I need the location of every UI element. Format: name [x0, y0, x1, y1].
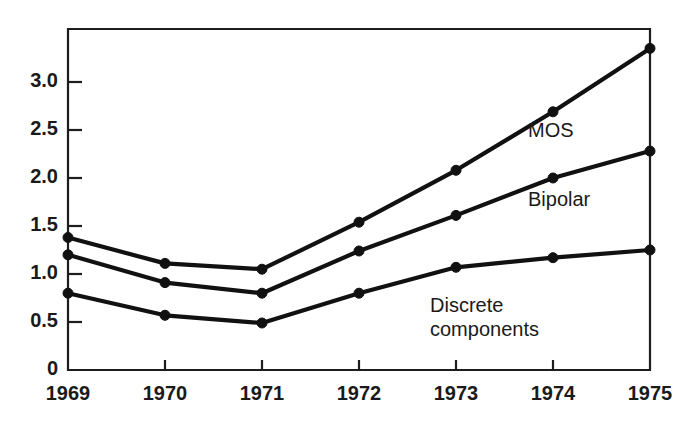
- y-tick-label-1.5: 1.5: [30, 213, 58, 235]
- series-mos: [63, 43, 655, 274]
- data-point: [354, 217, 364, 227]
- data-point: [160, 278, 170, 288]
- x-axis-labels: 1969 1970 1971 1972 1973 1974 1975: [46, 382, 673, 404]
- series-layer: [63, 43, 655, 328]
- series-label-discrete-line2: components: [430, 318, 539, 340]
- data-point: [63, 233, 73, 243]
- series-label-discrete-line1: Discrete: [430, 294, 503, 316]
- x-tick-label-1974: 1974: [531, 382, 576, 404]
- series-line: [68, 48, 650, 269]
- series-discrete-components: [63, 245, 655, 328]
- data-point: [548, 173, 558, 183]
- data-point: [257, 288, 267, 298]
- data-point: [354, 288, 364, 298]
- data-point: [645, 146, 655, 156]
- y-tick-label-3.0: 3.0: [30, 69, 58, 91]
- data-point: [451, 165, 461, 175]
- y-tick-label-2.0: 2.0: [30, 165, 58, 187]
- x-tick-label-1972: 1972: [337, 382, 382, 404]
- y-tick-label-1.0: 1.0: [30, 261, 58, 283]
- x-tick-label-1970: 1970: [143, 382, 188, 404]
- data-point: [645, 245, 655, 255]
- x-tick-label-1971: 1971: [240, 382, 285, 404]
- y-tick-label-2.5: 2.5: [30, 117, 58, 139]
- y-axis-labels: 3.0 2.5 2.0 1.5 1.0 0.5 0: [30, 69, 58, 379]
- y-tick-label-0: 0: [47, 357, 58, 379]
- data-point: [63, 250, 73, 260]
- line-chart: 3.0 2.5 2.0 1.5 1.0 0.5 0 1969 1970 1971…: [0, 0, 688, 429]
- x-tick-label-1969: 1969: [46, 382, 91, 404]
- data-point: [160, 310, 170, 320]
- x-tick-label-1973: 1973: [434, 382, 479, 404]
- series-label-mos: MOS: [528, 119, 574, 141]
- chart-figure: 3.0 2.5 2.0 1.5 1.0 0.5 0 1969 1970 1971…: [0, 0, 688, 429]
- data-point: [160, 258, 170, 268]
- data-point: [257, 264, 267, 274]
- data-point: [63, 288, 73, 298]
- series-label-bipolar: Bipolar: [528, 188, 591, 210]
- data-point: [645, 43, 655, 53]
- x-tick-label-1975: 1975: [628, 382, 673, 404]
- x-axis-ticks: [165, 360, 553, 370]
- data-point: [451, 210, 461, 220]
- data-point: [451, 262, 461, 272]
- y-tick-label-0.5: 0.5: [30, 309, 58, 331]
- data-point: [548, 253, 558, 263]
- data-point: [257, 318, 267, 328]
- data-point: [354, 246, 364, 256]
- y-axis-ticks: [68, 82, 82, 322]
- data-point: [548, 107, 558, 117]
- series-annotations: MOS Bipolar Discrete components: [430, 119, 591, 340]
